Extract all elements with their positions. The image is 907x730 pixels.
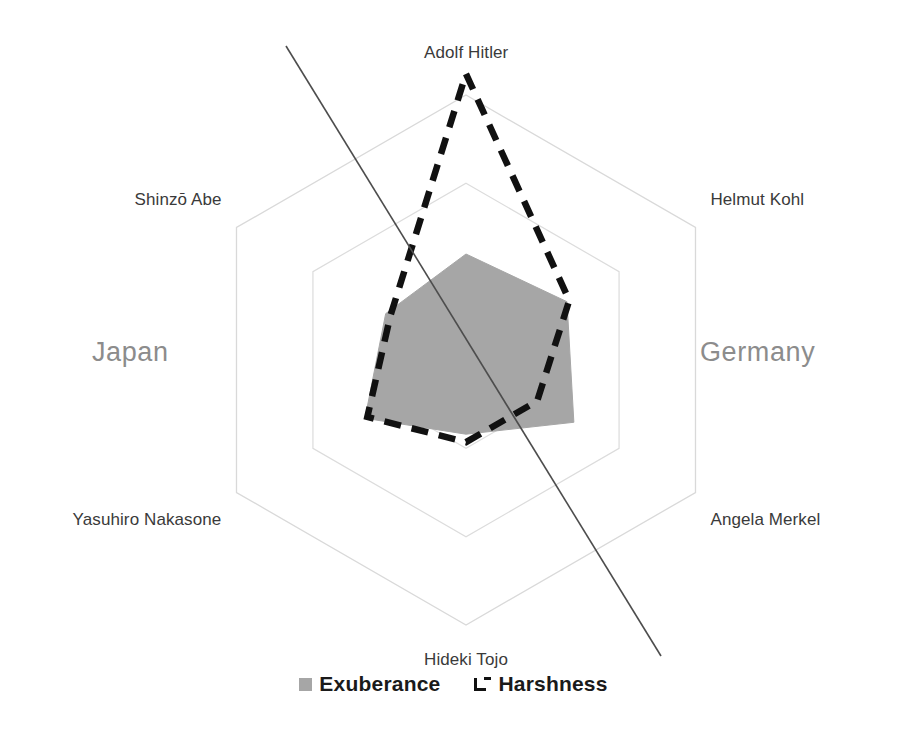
axis-label-helmut-kohl: Helmut Kohl (710, 190, 804, 210)
legend-item-exuberance[interactable]: Exuberance (299, 672, 440, 696)
axis-label-adolf-hitler: Adolf Hitler (424, 43, 508, 63)
radar-chart-figure: Adolf Hitler Helmut Kohl Angela Merkel H… (0, 0, 907, 730)
axis-label-shinzo-abe: Shinzō Abe (135, 190, 222, 210)
legend-swatch-harshness-bottom-segment (474, 688, 486, 691)
legend-swatch-exuberance-icon (299, 678, 312, 691)
legend-swatch-harshness-icon (474, 677, 491, 691)
group-label-japan: Japan (92, 337, 169, 368)
legend-swatch-harshness-top-segment (484, 677, 491, 680)
group-label-germany: Germany (700, 337, 815, 368)
axis-label-angela-merkel: Angela Merkel (710, 510, 820, 530)
legend-label-harshness: Harshness (498, 672, 607, 696)
legend-label-exuberance: Exuberance (319, 672, 440, 696)
trend-line-annotation (286, 46, 661, 656)
axis-label-yasuhiro-nakasone: Yasuhiro Nakasone (73, 510, 222, 530)
series-layer (365, 74, 574, 442)
legend-item-harshness[interactable]: Harshness (474, 672, 607, 696)
annotation-layer (286, 46, 661, 656)
axis-label-hideki-tojo: Hideki Tojo (424, 650, 508, 670)
chart-legend: Exuberance Harshness (0, 672, 907, 696)
